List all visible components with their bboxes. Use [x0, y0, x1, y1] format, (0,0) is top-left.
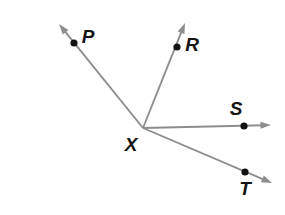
labels-group: PRSTX: [82, 26, 253, 199]
point-p-label: P: [82, 26, 95, 47]
geometry-diagram: PRSTX: [0, 0, 285, 215]
point-r-dot: [173, 43, 180, 50]
ray-xr-arrowhead-icon: [178, 23, 185, 34]
point-s-label: S: [230, 98, 243, 119]
vertex-x-label: X: [124, 134, 139, 155]
point-p-dot: [70, 39, 77, 46]
points-group: [70, 39, 248, 175]
ray-xt-arrowhead-icon: [261, 176, 272, 183]
point-r-label: R: [185, 34, 199, 55]
ray-xs-arrowhead-icon: [260, 122, 271, 129]
point-t-dot: [241, 168, 248, 175]
point-t-label: T: [239, 178, 252, 199]
geometry-canvas: PRSTX: [0, 0, 285, 215]
point-s-dot: [240, 122, 247, 129]
